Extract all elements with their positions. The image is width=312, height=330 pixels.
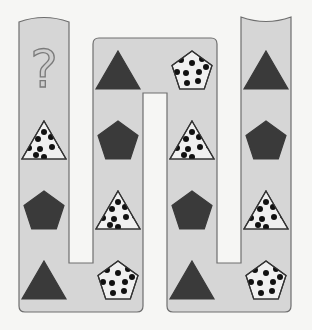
pattern-puzzle: ?	[0, 0, 312, 330]
cell-question: ?	[30, 39, 58, 99]
serpentine-path	[19, 17, 291, 312]
question-mark-icon: ?	[30, 39, 58, 99]
